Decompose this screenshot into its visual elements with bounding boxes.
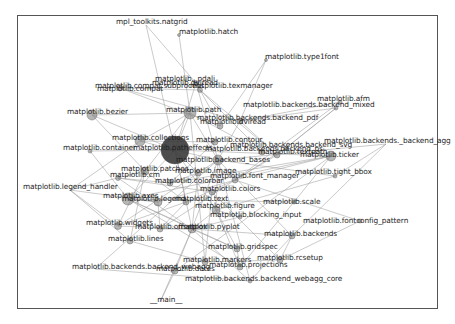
node-label: mpl_toolkits.natgrid <box>116 18 188 25</box>
node-label: matplotlib.backend_bases <box>176 156 270 163</box>
node-label: matplotlib.collections <box>112 134 189 141</box>
node-label: matplotlib.fontconfig_pattern <box>303 217 408 224</box>
node-label: matplotlib.container <box>63 144 136 151</box>
node-label: matplotlib.tight_bbox <box>295 168 372 175</box>
node-label: matplotlib.scale <box>263 198 320 205</box>
node-label: matplotlib.figure <box>195 202 255 209</box>
node-label: matplotlib.dates <box>156 265 215 272</box>
node-label: __main__ <box>150 296 182 303</box>
graph-edge <box>240 60 266 121</box>
node-label: matplotlib.bezier <box>67 108 128 115</box>
node-label: matplotlib.backends <box>264 230 337 237</box>
node-label: matplotlib.projections <box>209 261 288 268</box>
node-label: matplotlib.backends.backend_webagg_core <box>185 275 342 282</box>
node-label: matplotlib.lines <box>108 235 164 242</box>
node-label: matplotlib.dviread <box>200 118 266 125</box>
node-label: matplotlib.backends.backend_mixed <box>243 101 375 108</box>
node-label: matplotlib.pyplot <box>178 223 239 230</box>
node-label: matplotlib.backends._backend_agg <box>324 137 451 144</box>
node-label: matplotlib.gridspec <box>208 243 278 250</box>
node-label: matplotlib.patheffects <box>133 144 213 151</box>
node-label: matplotlib.ticker <box>300 151 359 158</box>
node-label: matplotlib.blocking_input <box>210 211 301 218</box>
node-label: matplotlib.hatch <box>179 28 238 35</box>
node-label: matplotlib.type1font <box>265 53 339 60</box>
node-label: matplotlib.colors <box>200 185 260 192</box>
node-label: matplotlib.texmanager <box>190 82 273 89</box>
node-label: matplotlib.cm <box>110 171 160 178</box>
node-label: matplotlib.legend_handler <box>23 183 118 190</box>
node-label: matplotlib.compat <box>97 85 163 92</box>
